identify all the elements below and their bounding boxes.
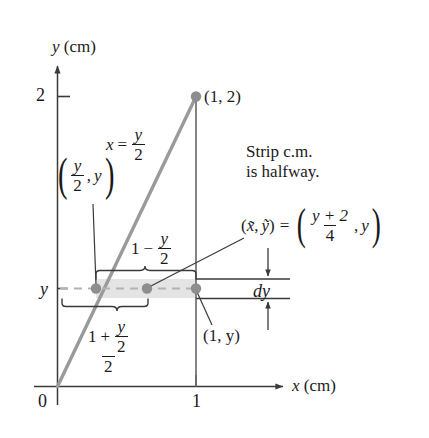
strip-cm-note: Strip c.m. is halfway. bbox=[246, 142, 320, 182]
cm-numerator: y + 2 bbox=[310, 207, 350, 225]
left-point-label: ( y 2 , y ) bbox=[55, 152, 117, 198]
upper-brace-minus: − bbox=[144, 240, 154, 257]
right-point-close: ) bbox=[234, 326, 240, 345]
lower-brace-inner-numerator: y bbox=[116, 318, 128, 336]
lower-brace-outer-numerator: 1 + y 2 bbox=[86, 318, 131, 356]
cm-equals: = bbox=[280, 217, 290, 234]
point-strip-right bbox=[191, 283, 201, 293]
left-point-numerator: y bbox=[72, 157, 84, 175]
curve-eq-sign: = bbox=[118, 136, 128, 153]
cm-close-paren: ) bbox=[269, 217, 275, 234]
strip-cm-note-line1: Strip c.m. bbox=[246, 142, 320, 162]
cm-formula-label: ( x̃ , ỹ ) = ( y + 2 4 , y ) bbox=[241, 203, 383, 247]
cm-second-coord: y bbox=[361, 217, 369, 234]
x-axis-title: x (cm) bbox=[292, 377, 336, 394]
cm-big-paren-close: ) bbox=[372, 203, 381, 247]
left-point-second: y bbox=[94, 167, 102, 184]
left-point-fraction: y 2 bbox=[71, 157, 84, 194]
curve-eq-denominator: 2 bbox=[132, 144, 145, 163]
upper-brace-denominator: 2 bbox=[158, 248, 171, 267]
upper-brace-label: 1 − y 2 bbox=[131, 230, 172, 267]
cm-y-tilde: ỹ bbox=[261, 217, 269, 234]
point-apex bbox=[191, 91, 201, 101]
y-axis-title: y (cm) bbox=[52, 38, 96, 55]
lower-brace-outer-denominator: 2 bbox=[102, 356, 115, 375]
x-axis-unit: (cm) bbox=[304, 376, 336, 395]
y-axis-unit: (cm) bbox=[64, 37, 96, 56]
lower-brace bbox=[62, 299, 148, 312]
strip-cm-note-line2: is halfway. bbox=[246, 162, 320, 182]
cm-big-paren-open: ( bbox=[297, 203, 306, 247]
leader-left-point bbox=[93, 204, 96, 285]
lower-brace-inner-fraction: y 2 bbox=[115, 318, 128, 355]
cm-denominator: 4 bbox=[324, 225, 337, 244]
lower-brace-inner-denominator: 2 bbox=[115, 336, 128, 355]
y-tick-label-2: 2 bbox=[36, 86, 45, 104]
curve-eq-fraction: y 2 bbox=[132, 126, 145, 163]
cm-x-tilde: x̃ bbox=[247, 217, 255, 234]
apex-point-label: (1, 2) bbox=[204, 88, 241, 105]
centroid-strip-figure: y (cm) x (cm) 0 1 2 y x = y 2 ( y 2 , bbox=[0, 0, 429, 438]
origin-label: 0 bbox=[38, 392, 47, 410]
left-point-denominator: 2 bbox=[71, 175, 84, 194]
left-paren-open: ( bbox=[58, 152, 68, 198]
cm-comma-2: , bbox=[354, 217, 358, 234]
right-point-label: (1, y) bbox=[203, 327, 240, 344]
right-point-var: y bbox=[226, 326, 235, 345]
point-strip-cm bbox=[142, 283, 152, 293]
upper-brace-one: 1 bbox=[131, 240, 140, 257]
left-paren-close: ) bbox=[105, 152, 115, 198]
curve-eq-numerator: y bbox=[133, 126, 145, 144]
y-tick-label-var: y bbox=[40, 280, 48, 298]
lower-brace-plus: + bbox=[101, 328, 111, 345]
x-tick-label-1: 1 bbox=[192, 392, 201, 410]
upper-brace-numerator: y bbox=[159, 230, 171, 248]
point-strip-left bbox=[91, 283, 101, 293]
lower-brace-outer-fraction: 1 + y 2 2 bbox=[86, 318, 131, 375]
cm-fraction: y + 2 4 bbox=[310, 207, 350, 244]
lower-brace-one: 1 bbox=[88, 328, 97, 345]
lower-brace-label: 1 + y 2 2 bbox=[85, 318, 132, 375]
left-point-comma: , bbox=[87, 167, 91, 184]
leader-right-point bbox=[197, 292, 212, 325]
dy-label: dy bbox=[253, 282, 270, 300]
right-point-open: (1, bbox=[203, 326, 221, 345]
cm-comma-1: , bbox=[254, 217, 258, 234]
upper-brace-fraction: y 2 bbox=[158, 230, 171, 267]
